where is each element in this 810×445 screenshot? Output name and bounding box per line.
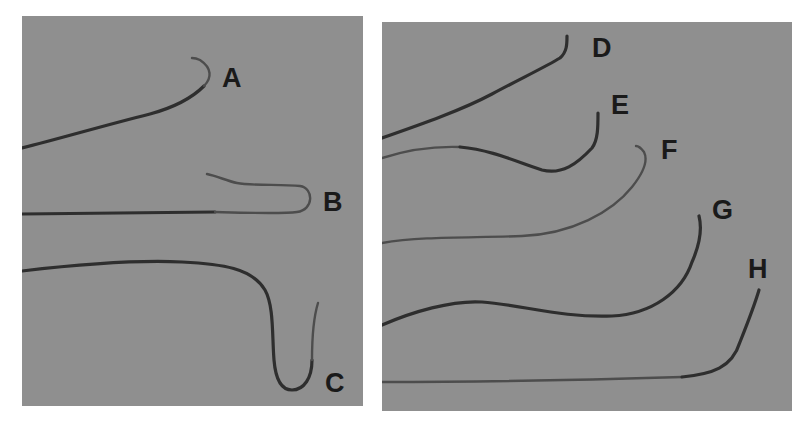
label-h: H [748, 254, 768, 284]
label-f: F [661, 135, 678, 165]
label-c: C [325, 368, 345, 398]
label-b: B [323, 187, 343, 217]
curve-h [382, 290, 759, 382]
left-photo-panel: A B C [22, 16, 363, 406]
curve-b [22, 174, 310, 214]
curve-c [22, 261, 318, 390]
curve-e [382, 113, 598, 171]
label-e: E [611, 90, 629, 120]
label-a: A [222, 63, 242, 93]
curve-a [22, 58, 210, 148]
left-panel-curves: A B C [22, 16, 363, 406]
right-panel-curves: D E F G H [382, 22, 792, 411]
label-d: D [592, 33, 612, 63]
right-photo-panel: D E F G H [382, 22, 792, 411]
curve-d [382, 36, 567, 138]
curve-g [382, 216, 700, 325]
label-g: G [712, 195, 733, 225]
